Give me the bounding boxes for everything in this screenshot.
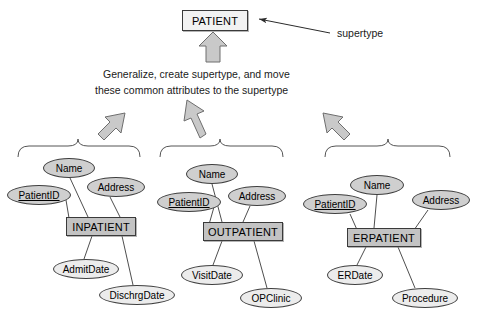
entity-outpatient[interactable]: OUTPATIENT <box>203 222 283 241</box>
attribute-outpatient-name[interactable]: Name <box>186 164 238 184</box>
supertype-pointer <box>259 19 330 33</box>
attribute-label: Name <box>364 180 391 191</box>
attribute-label: DischrgDate <box>109 290 164 301</box>
entity-inpatient[interactable]: INPATIENT <box>66 217 136 236</box>
entity-patient-label: PATIENT <box>192 15 238 27</box>
block-arrow-to-supertype <box>199 32 227 62</box>
attribute-outpatient-opclinic[interactable]: OPClinic <box>240 288 302 308</box>
attribute-label: Address <box>423 195 460 206</box>
brace-erpatient <box>325 139 450 157</box>
attribute-label: VisitDate <box>192 270 232 281</box>
attribute-inpatient-address[interactable]: Address <box>87 177 145 197</box>
instruction-line-2: these common attributes to the supertype <box>95 84 288 96</box>
attribute-label: OPClinic <box>252 293 291 304</box>
attribute-label: Address <box>98 182 135 193</box>
brace-inpatient <box>18 139 140 157</box>
attribute-label: ERDate <box>337 270 372 281</box>
block-arrow-inpatient <box>98 113 125 140</box>
attribute-label: Name <box>56 163 83 174</box>
entity-erpatient[interactable]: ERPATIENT <box>347 228 421 247</box>
attribute-erpatient-procedure[interactable]: Procedure <box>392 288 458 308</box>
attribute-outpatient-address[interactable]: Address <box>228 186 286 206</box>
entity-erpatient-label: ERPATIENT <box>353 232 415 244</box>
attribute-outpatient-patientid[interactable]: PatientID <box>157 192 221 212</box>
attribute-inpatient-name[interactable]: Name <box>43 158 95 178</box>
attribute-erpatient-erdate[interactable]: ERDate <box>327 265 383 285</box>
entity-inpatient-label: INPATIENT <box>72 221 130 233</box>
entity-outpatient-label: OUTPATIENT <box>208 226 278 238</box>
attribute-label: PatientID <box>314 199 355 210</box>
attribute-label: PatientID <box>18 190 59 201</box>
block-arrow-erpatient <box>323 113 350 140</box>
attribute-label: Address <box>239 191 276 202</box>
er-diagram-canvas: PATIENT supertype Generalize, create sup… <box>0 0 483 319</box>
attribute-inpatient-dischrgdate[interactable]: DischrgDate <box>99 285 175 305</box>
instruction-line-1-label: Generalize, create supertype, and move <box>103 68 290 80</box>
attribute-erpatient-address[interactable]: Address <box>412 190 470 210</box>
attribute-outpatient-visitdate[interactable]: VisitDate <box>181 265 243 285</box>
entity-patient[interactable]: PATIENT <box>182 10 248 31</box>
brace-outpatient <box>160 139 283 157</box>
attribute-label: Procedure <box>402 293 448 304</box>
attribute-erpatient-name[interactable]: Name <box>350 175 404 195</box>
attribute-label: Name <box>199 169 226 180</box>
attribute-label: PatientID <box>168 197 209 208</box>
attribute-inpatient-patientid[interactable]: PatientID <box>7 185 71 205</box>
instruction-line-2-label: these common attributes to the supertype <box>95 84 288 96</box>
supertype-annotation-label: supertype <box>337 27 383 39</box>
instruction-line-1: Generalize, create supertype, and move <box>103 68 290 80</box>
attribute-erpatient-patientid[interactable]: PatientID <box>303 194 367 214</box>
supertype-annotation: supertype <box>337 27 383 39</box>
block-arrow-outpatient <box>184 100 206 138</box>
attribute-inpatient-admitdate[interactable]: AdmitDate <box>53 259 119 279</box>
attribute-label: AdmitDate <box>63 264 110 275</box>
